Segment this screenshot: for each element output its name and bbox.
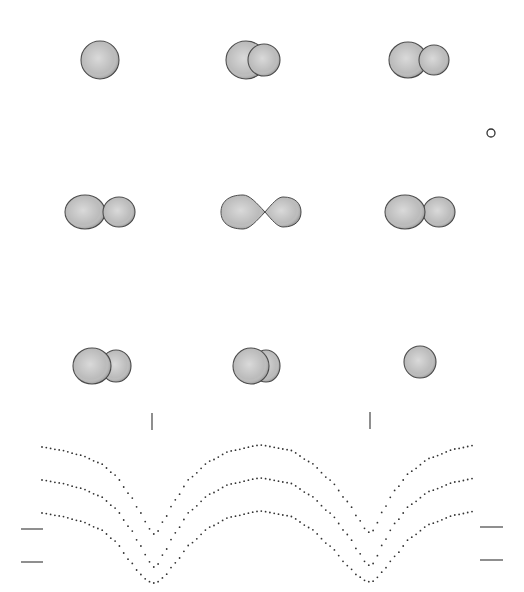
light-curve-2	[41, 477, 473, 568]
level-marks	[21, 527, 503, 562]
primary-star	[65, 195, 105, 229]
light-curves	[41, 444, 473, 584]
phase-panel-0-2	[389, 42, 449, 78]
phase-panel-0-0	[81, 41, 119, 79]
phase-tick-marks	[152, 412, 370, 430]
phase-panel-2-1	[233, 348, 280, 384]
secondary-star	[248, 44, 280, 76]
phase-panel-1-0	[65, 195, 135, 229]
phase-panel-2-0	[73, 348, 131, 384]
primary-star	[385, 195, 425, 229]
light-curve-3	[41, 510, 473, 584]
primary-star	[73, 348, 111, 384]
primary-star	[81, 41, 119, 79]
secondary-star	[423, 197, 455, 227]
secondary-star	[419, 45, 449, 75]
phase-panel-1-1	[221, 195, 301, 229]
phase-panel-0-1	[226, 41, 280, 79]
primary-star	[404, 346, 436, 378]
primary-star	[221, 195, 265, 229]
figure-canvas	[0, 0, 524, 592]
light-curve-1	[41, 444, 473, 535]
secondary-star	[103, 197, 135, 227]
binary-star-figure	[0, 0, 524, 592]
primary-star	[233, 348, 269, 384]
secondary-star	[265, 197, 301, 227]
reference-circle-marker	[487, 129, 495, 137]
orbital-phase-panels	[65, 41, 455, 384]
phase-panel-2-2	[404, 346, 436, 378]
phase-panel-1-2	[385, 195, 455, 229]
